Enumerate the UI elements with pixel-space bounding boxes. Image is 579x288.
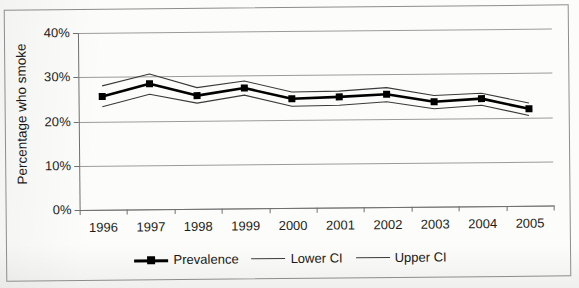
x-tick-label-2004: 2004 bbox=[457, 216, 509, 231]
x-tick-mark bbox=[554, 205, 555, 210]
series-line-lower-ci bbox=[102, 91, 529, 120]
x-tick-label-2002: 2002 bbox=[362, 217, 414, 232]
legend-label: Prevalence bbox=[173, 252, 238, 266]
x-tick-mark bbox=[317, 208, 318, 213]
data-point-2001 bbox=[336, 93, 343, 100]
data-series-layer bbox=[78, 28, 554, 210]
y-axis-tick-labels: 0%10%20%30%40% bbox=[0, 2, 72, 288]
legend-swatch-icon bbox=[356, 252, 390, 263]
y-tick-label: 30% bbox=[44, 69, 70, 84]
x-tick-mark bbox=[80, 210, 81, 215]
x-tick-mark bbox=[269, 208, 270, 213]
data-point-1998 bbox=[193, 92, 200, 99]
x-tick-mark bbox=[459, 206, 460, 211]
legend-label: Lower CI bbox=[291, 251, 343, 264]
y-tick-label: 20% bbox=[44, 114, 70, 129]
x-tick-label-2000: 2000 bbox=[267, 218, 319, 233]
series-line-prevalence bbox=[102, 80, 529, 113]
x-tick-label-1997: 1997 bbox=[125, 219, 177, 234]
data-point-2003 bbox=[431, 98, 438, 105]
legend-swatch-icon bbox=[134, 254, 168, 265]
data-point-1999 bbox=[241, 85, 248, 92]
x-tick-mark bbox=[222, 209, 223, 214]
x-tick-mark bbox=[411, 207, 412, 212]
x-tick-label-1998: 1998 bbox=[172, 219, 224, 234]
x-tick-mark bbox=[174, 209, 175, 214]
data-point-2004 bbox=[478, 95, 485, 102]
legend-swatch-icon bbox=[252, 253, 286, 264]
x-tick-label-2003: 2003 bbox=[409, 216, 461, 231]
y-tick-label: 0% bbox=[53, 202, 72, 217]
x-tick-label-1996: 1996 bbox=[77, 220, 129, 235]
legend-item-prevalence[interactable]: Prevalence bbox=[134, 252, 238, 266]
data-point-2000 bbox=[288, 95, 295, 102]
x-tick-label-2005: 2005 bbox=[504, 215, 556, 230]
chart-skew-wrapper: Percentage who smoke 0%10%20%30%40% 1996… bbox=[0, 0, 579, 288]
data-point-1996 bbox=[99, 93, 106, 100]
data-point-2002 bbox=[383, 91, 390, 98]
x-tick-mark bbox=[127, 210, 128, 215]
y-tick-label: 10% bbox=[45, 158, 71, 173]
x-tick-label-1999: 1999 bbox=[220, 218, 272, 233]
legend-item-lower-ci[interactable]: Lower CI bbox=[252, 251, 343, 265]
legend-item-upper-ci[interactable]: Upper CI bbox=[356, 250, 447, 264]
x-tick-label-2001: 2001 bbox=[314, 217, 366, 232]
data-point-2005 bbox=[525, 105, 532, 112]
y-tick-label: 40% bbox=[44, 25, 70, 40]
x-tick-mark bbox=[364, 207, 365, 212]
legend-label: Upper CI bbox=[395, 250, 447, 263]
data-point-1997 bbox=[146, 80, 153, 87]
x-tick-mark bbox=[506, 206, 507, 211]
chart-figure: Percentage who smoke 0%10%20%30%40% 1996… bbox=[0, 0, 579, 288]
